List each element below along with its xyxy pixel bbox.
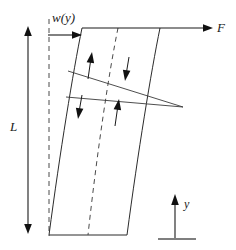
tip-force-arrowhead — [203, 24, 213, 32]
stress-arrow-down-left-head — [76, 108, 84, 119]
tip-force-label: F — [216, 20, 226, 35]
beam-length-label: L — [9, 119, 17, 134]
stress-arrow-down-right — [123, 57, 130, 81]
beam-right-edge-curve — [127, 28, 160, 235]
length-dimension-arrowhead-top — [24, 26, 32, 36]
distributed-load-label: w(y) — [52, 10, 75, 25]
y-axis-arrowhead — [171, 194, 179, 205]
y-axis-arrow — [158, 194, 196, 239]
beam-left-edge-curve — [49, 28, 82, 235]
section-line-lower — [66, 97, 183, 107]
length-dimension-arrowhead-bottom — [24, 224, 32, 234]
stress-arrow-up-right — [114, 99, 122, 126]
beam-deflection-figure: w(y) F L y — [0, 0, 236, 250]
length-dimension-arrow — [24, 26, 32, 234]
stress-arrow-down-right-head — [123, 70, 130, 81]
y-axis-label: y — [183, 197, 190, 211]
stress-arrow-up-left — [87, 52, 95, 79]
stress-arrow-up-right-head — [114, 99, 122, 110]
tip-force-arrow — [82, 24, 213, 32]
distributed-load-arrow — [48, 31, 82, 39]
beam-diagram-canvas: w(y) F L y — [0, 0, 236, 250]
stress-arrow-up-left-head — [87, 52, 95, 63]
